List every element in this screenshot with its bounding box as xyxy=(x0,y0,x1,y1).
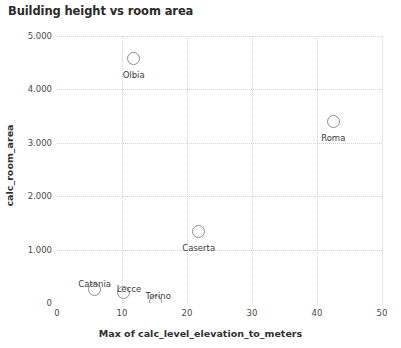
gridline-vertical xyxy=(317,36,318,303)
gridline-vertical xyxy=(187,36,188,303)
y-axis-title: calc_room_area xyxy=(4,106,15,226)
data-point-label: Torino xyxy=(145,291,170,301)
x-axis-tick-label: 40 xyxy=(312,308,323,318)
x-axis-tick-label: 20 xyxy=(182,308,193,318)
data-point-label: Caserta xyxy=(182,243,215,253)
data-point-label: Roma xyxy=(321,133,345,143)
gridline-horizontal xyxy=(57,89,382,90)
data-point-label: Lecce xyxy=(117,284,141,294)
gridline-horizontal xyxy=(57,196,382,197)
y-axis-tick-label: 3.000 xyxy=(28,138,52,148)
y-axis-tick-label: 0 xyxy=(47,298,52,308)
plot-bottom-clip xyxy=(57,303,382,348)
x-axis-tick-label: 30 xyxy=(247,308,258,318)
gridline-horizontal xyxy=(57,36,382,37)
x-axis-tick-label: 10 xyxy=(117,308,128,318)
x-axis-tick-label: 0 xyxy=(54,308,59,318)
gridline-vertical xyxy=(382,36,383,303)
scatter-chart: Building height vs room area 01.0002.000… xyxy=(0,0,401,348)
y-axis-tick-label: 4.000 xyxy=(28,84,52,94)
data-point-label: Catania xyxy=(78,279,111,289)
y-axis-tick-label: 5.000 xyxy=(28,31,52,41)
y-axis-tick-label: 2.000 xyxy=(28,191,52,201)
x-axis-title: Max of calc_level_elevation_to_meters xyxy=(0,328,401,339)
y-axis-tick-label: 1.000 xyxy=(28,245,52,255)
plot-area: OlbiaRomaCasertaCataniaLecceTorino xyxy=(57,36,382,303)
x-axis-tick-label: 50 xyxy=(377,308,388,318)
gridline-vertical xyxy=(252,36,253,303)
gridlines xyxy=(57,36,382,303)
gridline-horizontal xyxy=(57,250,382,251)
data-point-label: Olbia xyxy=(123,70,145,80)
